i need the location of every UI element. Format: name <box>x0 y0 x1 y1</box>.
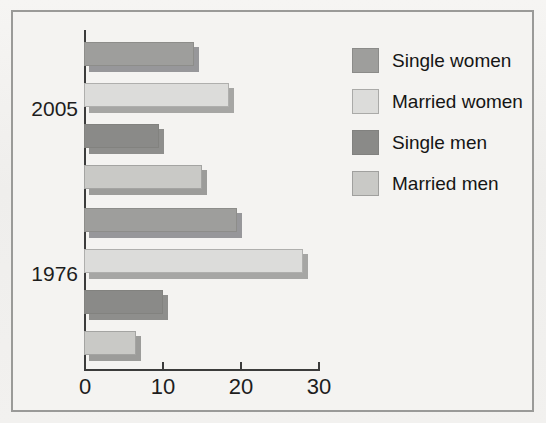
chart-figure: 0102030 2005 1976 Single womenMarried wo… <box>0 0 546 423</box>
group-label-2005: 2005 <box>8 97 78 121</box>
bar-face <box>84 42 194 66</box>
x-tick-20 <box>240 362 242 371</box>
bar-bottom-shadow <box>89 189 202 195</box>
bar-face <box>84 124 159 148</box>
bar-1976-single-women <box>84 208 242 238</box>
bar-side-shadow <box>237 213 242 238</box>
legend-label: Married men <box>392 173 499 195</box>
chart-legend: Single womenMarried womenSingle menMarri… <box>352 40 523 204</box>
bar-bottom-shadow <box>89 273 303 279</box>
legend-item-single-men: Single men <box>352 122 523 163</box>
legend-swatch-icon <box>352 171 379 196</box>
bar-bottom-shadow <box>89 107 229 113</box>
x-axis-line <box>84 369 318 371</box>
x-tick-label-0: 0 <box>79 374 91 400</box>
legend-item-married-men: Married men <box>352 163 523 204</box>
x-tick-10 <box>162 362 164 371</box>
bar-face <box>84 249 303 273</box>
legend-swatch-icon <box>352 48 379 73</box>
legend-label: Single women <box>392 50 511 72</box>
x-tick-0 <box>84 362 86 371</box>
bar-side-shadow <box>202 170 207 195</box>
legend-label: Single men <box>392 132 487 154</box>
x-tick-label-20: 20 <box>229 374 253 400</box>
bar-face <box>84 165 202 189</box>
group-label-1976: 1976 <box>8 262 78 286</box>
bar-face <box>84 83 229 107</box>
bar-side-shadow <box>136 336 141 361</box>
bar-bottom-shadow <box>89 314 163 320</box>
bar-1976-married-women <box>84 249 308 279</box>
legend-swatch-icon <box>352 89 379 114</box>
x-tick-label-30: 30 <box>307 374 331 400</box>
bar-side-shadow <box>163 295 168 320</box>
bar-1976-single-men <box>84 290 168 320</box>
bar-face <box>84 290 163 314</box>
bar-1976-married-men <box>84 331 141 361</box>
x-tick-30 <box>318 362 320 371</box>
bar-side-shadow <box>194 47 199 72</box>
bar-2005-married-men <box>84 165 207 195</box>
bar-side-shadow <box>159 129 164 154</box>
bar-face <box>84 331 136 355</box>
bar-side-shadow <box>229 88 234 113</box>
bar-bottom-shadow <box>89 355 136 361</box>
bar-2005-married-women <box>84 83 234 113</box>
bar-side-shadow <box>303 254 308 279</box>
x-tick-label-10: 10 <box>151 374 175 400</box>
bar-bottom-shadow <box>89 148 159 154</box>
bar-face <box>84 208 237 232</box>
legend-item-married-women: Married women <box>352 81 523 122</box>
legend-item-single-women: Single women <box>352 40 523 81</box>
bar-bottom-shadow <box>89 66 194 72</box>
bar-2005-single-women <box>84 42 199 72</box>
bar-bottom-shadow <box>89 232 237 238</box>
bar-2005-single-men <box>84 124 164 154</box>
legend-label: Married women <box>392 91 523 113</box>
plot-area: 0102030 2005 1976 Single womenMarried wo… <box>0 0 546 423</box>
legend-swatch-icon <box>352 130 379 155</box>
